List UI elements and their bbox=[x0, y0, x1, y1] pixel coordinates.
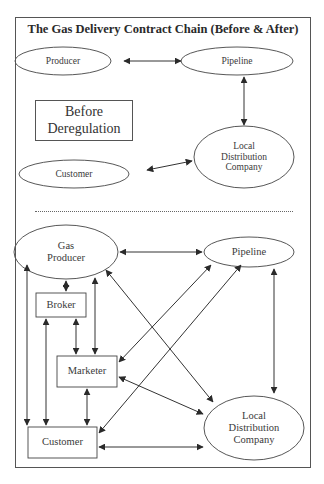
before-label-line1: Before bbox=[47, 104, 120, 120]
after-pipeline-text: Pipeline bbox=[232, 246, 266, 258]
diagram-title: The Gas Delivery Contract Chain (Before … bbox=[15, 22, 311, 37]
before-pipeline-text: Pipeline bbox=[221, 56, 252, 67]
before-pipeline-label: Pipeline bbox=[181, 54, 293, 68]
after-gas-producer-label: Gas Producer bbox=[14, 236, 118, 268]
after-customer-label: Customer bbox=[28, 427, 97, 458]
after-ldc-label: Local Distribution Company bbox=[204, 402, 304, 454]
section-divider bbox=[35, 211, 293, 212]
after-gas-producer-line1: Gas bbox=[58, 240, 74, 252]
after-ldc-line3: Company bbox=[234, 434, 275, 446]
after-broker-label: Broker bbox=[36, 293, 86, 317]
before-deregulation-label: Before Deregulation bbox=[35, 100, 133, 141]
before-customer-text: Customer bbox=[56, 169, 93, 180]
before-producer-text: Producer bbox=[46, 56, 80, 67]
gas-contract-chain-diagram: The Gas Delivery Contract Chain (Before … bbox=[0, 0, 324, 484]
before-customer-label: Customer bbox=[19, 167, 129, 181]
before-ldc-line3: Company bbox=[226, 162, 263, 173]
before-producer-label: Producer bbox=[15, 54, 111, 68]
after-customer-text: Customer bbox=[42, 436, 83, 448]
before-ldc-line1: Local bbox=[233, 141, 255, 152]
after-pipeline-label: Pipeline bbox=[204, 244, 294, 260]
before-ldc-line2: Distribution bbox=[221, 152, 267, 163]
after-broker-text: Broker bbox=[46, 299, 75, 311]
after-gas-producer-line2: Producer bbox=[47, 252, 85, 264]
after-ldc-line2: Distribution bbox=[229, 422, 280, 434]
before-label-line2: Deregulation bbox=[47, 121, 120, 137]
after-marketer-label: Marketer bbox=[57, 356, 117, 387]
after-ldc-line1: Local bbox=[242, 410, 266, 422]
after-marketer-text: Marketer bbox=[68, 365, 106, 377]
before-ldc-label: Local Distribution Company bbox=[194, 132, 294, 182]
